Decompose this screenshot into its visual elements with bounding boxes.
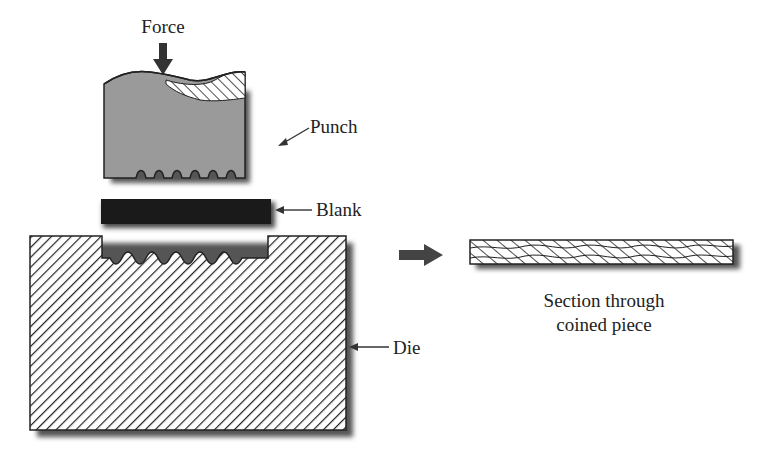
- die-label: Die: [393, 337, 420, 358]
- die-leader-arrow-icon: [349, 343, 389, 351]
- punch-label: Punch: [310, 116, 358, 137]
- section-caption-line2: coined piece: [556, 314, 651, 335]
- process-arrow-icon: [399, 244, 443, 266]
- blank-leader-arrow-icon: [275, 206, 312, 214]
- force-arrow-icon: [153, 43, 173, 75]
- coined-piece-section: [470, 240, 740, 269]
- force-label: Force: [141, 16, 184, 37]
- coining-diagram: Force Punch Blank Die: [0, 0, 767, 460]
- blank-label: Blank: [316, 199, 362, 220]
- punch: [104, 71, 250, 183]
- punch-leader-arrow-icon: [278, 128, 309, 146]
- blank: [101, 199, 275, 228]
- section-caption-line1: Section through: [544, 290, 665, 311]
- die: [30, 236, 353, 437]
